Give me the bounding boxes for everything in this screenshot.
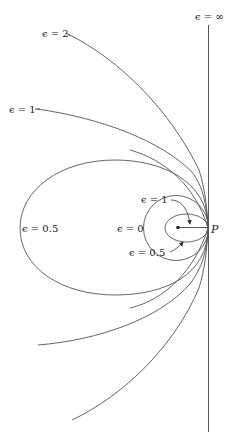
label-eps-0: ϵ = 0 (117, 223, 144, 234)
label-eps-0.5-inner: ϵ = 0.5 (129, 247, 165, 258)
label-eps-0.5-outer: ϵ = 0.5 (22, 223, 58, 234)
conic-sections-diagram: ϵ = ∞ ϵ = 2 ϵ = 1 ϵ = 0.5 ϵ = 1 ϵ = 0 ϵ … (0, 0, 235, 436)
parabola-eps-1-lower (38, 228, 208, 345)
label-eps-1-outer: ϵ = 1 (9, 104, 36, 115)
focus-dot (176, 226, 180, 230)
label-point-p: P (210, 223, 219, 236)
fan-curve-upper-1 (130, 150, 208, 228)
label-eps-infinity: ϵ = ∞ (195, 11, 224, 22)
hyperbola-eps-2-upper (68, 34, 208, 228)
leader-eps-0.5-inner (170, 242, 183, 252)
fan-curve-lower-1 (130, 228, 208, 308)
leader-eps-1-inner (171, 200, 190, 224)
parabola-eps-1-upper (37, 109, 208, 228)
label-eps-2: ϵ = 2 (42, 28, 69, 39)
label-eps-1-inner: ϵ = 1 (141, 194, 168, 205)
